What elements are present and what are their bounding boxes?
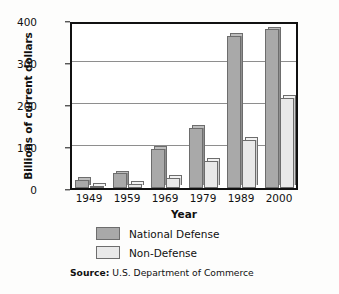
bar-face (189, 128, 203, 188)
bar-side-shade (165, 146, 168, 185)
source-note: Source: U.S. Department of Commerce (70, 267, 320, 278)
legend-label-nondefense: Non-Defense (129, 247, 197, 259)
bar-side-shade (203, 125, 206, 185)
plot-area (70, 22, 298, 190)
legend-item-nondefense[interactable]: Non-Defense (96, 243, 296, 262)
bar-1969-nondefense[interactable] (166, 178, 180, 189)
bar-1969-defense[interactable] (151, 149, 165, 188)
bar-side-shade (241, 33, 244, 185)
source-label: Source: (70, 267, 109, 278)
bar-face (151, 149, 165, 188)
bar-1989-defense[interactable] (227, 36, 241, 188)
legend-item-defense[interactable]: National Defense (96, 224, 296, 243)
bar-2000-nondefense[interactable] (280, 98, 294, 188)
y-tick-label-0: 0 (0, 184, 37, 196)
bar-side-shade (256, 137, 259, 185)
bar-face (242, 140, 256, 188)
legend-swatch-defense (96, 227, 120, 240)
legend-swatch-nondefense (96, 246, 120, 259)
y-tick-label-100: 100 (0, 142, 37, 154)
bar-group-1989 (224, 24, 262, 188)
bar-1979-defense[interactable] (189, 128, 203, 188)
bar-face (280, 98, 294, 188)
bar-side-shade (218, 158, 221, 185)
bar-1959-nondefense[interactable] (128, 184, 142, 188)
plot-inner (72, 24, 296, 188)
source-value: U.S. Department of Commerce (109, 267, 253, 278)
y-tick-label-300: 300 (0, 58, 37, 70)
bar-face (166, 178, 180, 189)
bar-face (90, 186, 104, 188)
bar-group-1959 (110, 24, 148, 188)
bar-group-1949 (72, 24, 110, 188)
bar-group-2000 (262, 24, 300, 188)
bar-face (204, 161, 218, 188)
bar-1959-defense[interactable] (113, 173, 127, 188)
x-tick-label-2000: 2000 (256, 192, 302, 204)
bar-1989-nondefense[interactable] (242, 140, 256, 188)
bar-face (113, 173, 127, 188)
bar-face (75, 180, 89, 188)
chart-figure: Billions of current dollars 010020030040… (0, 0, 339, 294)
x-axis-ticks: 194919591969197919892000 (70, 192, 298, 208)
bar-1949-nondefense[interactable] (90, 186, 104, 188)
bar-side-shade (294, 95, 297, 185)
x-axis-title: Year (70, 208, 298, 220)
bar-face (128, 184, 142, 188)
y-tick-label-400: 400 (0, 16, 37, 28)
bar-group-1969 (148, 24, 186, 188)
bar-side-shade (279, 27, 282, 186)
bar-1979-nondefense[interactable] (204, 161, 218, 188)
bar-1949-defense[interactable] (75, 180, 89, 188)
legend-label-defense: National Defense (129, 228, 219, 240)
bar-2000-defense[interactable] (265, 29, 279, 188)
bar-face (265, 29, 279, 188)
bar-face (227, 36, 241, 188)
bar-group-1979 (186, 24, 224, 188)
chart-legend: National DefenseNon-Defense (96, 224, 296, 262)
y-tick-label-200: 200 (0, 100, 37, 112)
